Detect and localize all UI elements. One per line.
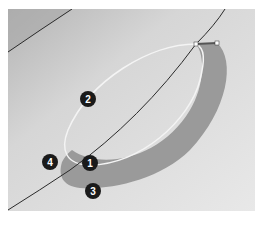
callout-1: 1 (82, 155, 98, 171)
svg-text:4: 4 (47, 157, 53, 168)
callout-3: 3 (85, 183, 101, 199)
callout-4: 4 (42, 154, 58, 170)
svg-text:1: 1 (87, 158, 93, 169)
figure-frame: 1 2 3 4 (8, 9, 255, 211)
control-point-handle (194, 42, 198, 46)
control-point-handle (215, 41, 219, 45)
svg-text:2: 2 (85, 94, 91, 105)
svg-text:3: 3 (90, 186, 96, 197)
connector-segment (196, 43, 217, 44)
callout-2: 2 (80, 91, 96, 107)
surface-blend-diagram: 1 2 3 4 (8, 9, 255, 211)
